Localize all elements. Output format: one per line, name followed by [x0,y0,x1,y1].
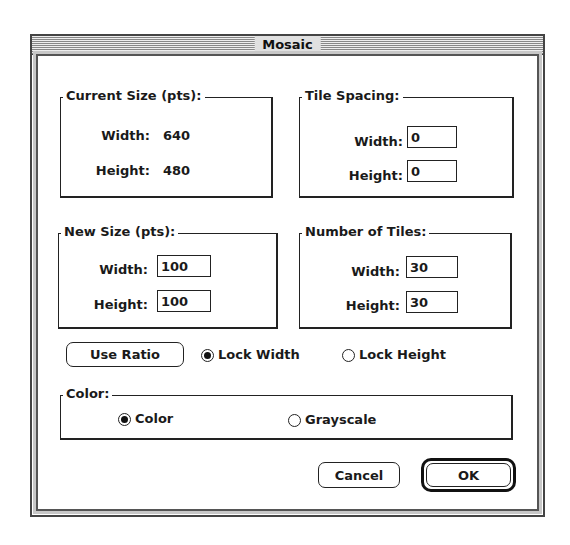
current-height-label: Height: [80,163,150,179]
grayscale-radio[interactable]: Grayscale [288,412,376,428]
new-width-input[interactable] [157,255,211,277]
tiles-width-label: Width: [320,264,400,280]
new-width-label: Width: [70,262,148,278]
tiles-width-input[interactable] [406,256,458,278]
lock-height-radio[interactable]: Lock Height [342,347,446,363]
ok-button[interactable]: OK [426,463,511,487]
color-radio[interactable]: Color [118,411,173,427]
tile-spacing-label: Tile Spacing: [302,88,403,104]
lock-height-label: Lock Height [359,347,446,363]
lock-width-radio[interactable]: Lock Width [201,347,300,363]
radio-unselected-icon [342,349,355,362]
tile-spacing-height-label: Height: [325,168,403,184]
radio-selected-icon [201,349,214,362]
current-width-value: 640 [163,128,190,144]
current-width-label: Width: [80,128,150,144]
number-of-tiles-label: Number of Tiles: [302,224,429,240]
current-height-value: 480 [163,163,190,179]
new-height-label: Height: [70,297,148,313]
tile-spacing-width-label: Width: [325,134,403,150]
color-option-label: Color [135,411,173,427]
title-bar[interactable]: Mosaic [32,36,543,55]
radio-unselected-icon [288,414,301,427]
tiles-height-input[interactable] [406,291,458,313]
tiles-height-label: Height: [320,298,400,314]
tile-spacing-height-input[interactable] [407,160,457,182]
window-title: Mosaic [254,36,321,54]
current-size-label: Current Size (pts): [63,88,205,104]
color-group-label: Color: [63,386,112,402]
cancel-button[interactable]: Cancel [318,462,400,488]
new-size-group: New Size (pts): [58,233,278,329]
new-height-input[interactable] [157,290,211,312]
new-size-label: New Size (pts): [61,224,178,240]
current-size-group: Current Size (pts): [60,97,273,198]
number-of-tiles-group: Number of Tiles: [299,233,512,329]
radio-selected-icon [118,413,131,426]
use-ratio-button[interactable]: Use Ratio [66,342,184,367]
tile-spacing-width-input[interactable] [407,126,457,148]
grayscale-option-label: Grayscale [305,412,376,428]
lock-width-label: Lock Width [218,347,300,363]
